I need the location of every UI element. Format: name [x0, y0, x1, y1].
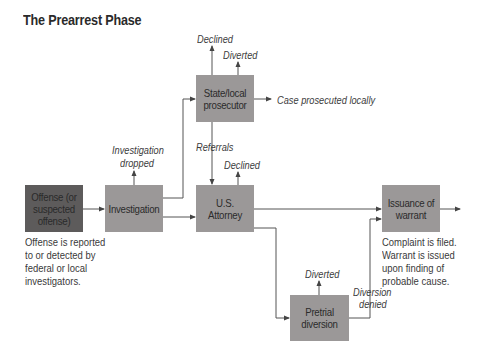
- state-prosecutor-box-label: State/local prosecutor: [199, 87, 250, 111]
- us-attorney-box-label: U.S. Attorney: [199, 197, 250, 221]
- referrals-label: Referrals: [196, 141, 233, 153]
- warrant-note-line: upon finding of: [382, 262, 457, 275]
- pretrial-diversion-box-label: Pretrial diversion: [294, 306, 346, 330]
- diverted-state-label: Diverted: [223, 49, 257, 61]
- investigation-dropped-label-2: dropped: [120, 157, 154, 169]
- state-prosecutor-box: State/local prosecutor: [196, 75, 254, 122]
- offense-box: Offense (or suspected offense): [25, 185, 83, 232]
- offense-note-line: Offense is reported: [25, 236, 105, 249]
- issuance-warrant-box-label: Issuance of warrant: [385, 197, 436, 221]
- pretrial-diversion-box: Pretrial diversion: [290, 295, 349, 341]
- issuance-warrant-box: Issuance of warrant: [382, 185, 440, 232]
- investigation-box: Investigation: [105, 185, 163, 232]
- warrant-note-line: Complaint is filed.: [382, 236, 457, 249]
- declined-state-label: Declined: [197, 33, 233, 45]
- investigation-dropped-label-1: Investigation: [112, 144, 164, 156]
- us-attorney-box: U.S. Attorney: [196, 185, 254, 232]
- diverted-pretrial-label: Diverted: [305, 268, 339, 280]
- declined-us-label: Declined: [224, 159, 260, 171]
- offense-note-line: federal or local: [25, 262, 105, 275]
- warrant-note-line: Warrant is issued: [382, 249, 457, 262]
- offense-note-line: to or detected by: [25, 249, 105, 262]
- offense-box-label: Offense (or suspected offense): [28, 191, 79, 227]
- case-prosecuted-locally-label: Case prosecuted locally: [277, 94, 375, 106]
- offense-note: Offense is reported to or detected by fe…: [25, 236, 105, 288]
- warrant-note-line: probable cause.: [382, 275, 457, 288]
- diversion-denied-label-2: denied: [359, 298, 387, 310]
- offense-note-line: investigators.: [25, 275, 105, 288]
- investigation-box-label: Investigation: [109, 203, 160, 215]
- warrant-note: Complaint is filed. Warrant is issued up…: [382, 236, 457, 288]
